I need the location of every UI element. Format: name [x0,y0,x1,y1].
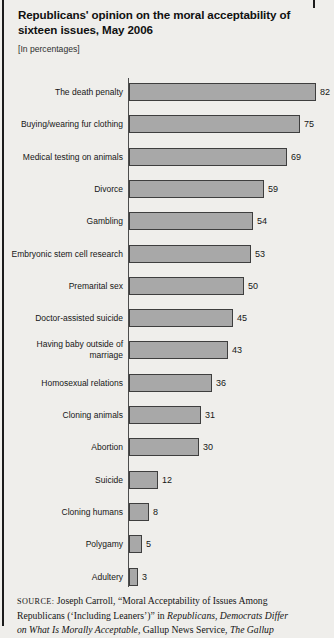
bar-row: Embryonic stem cell research53 [0,245,334,263]
value-label: 5 [146,539,151,549]
category-label: Embryonic stem cell research [2,248,123,259]
source-citation: SOURCE: Joseph Carroll, “Moral Acceptabi… [17,594,321,638]
bar-row: Cloning animals31 [0,406,334,424]
bar [129,180,264,198]
value-label: 45 [237,313,247,323]
bar-row: Premarital sex50 [0,277,334,295]
bar-row: Medical testing on animals69 [0,148,334,166]
bar-row: Having baby outside of marriage43 [0,341,334,359]
bar-row: Adultery3 [0,568,334,586]
bar [129,83,316,101]
category-label: Gambling [2,216,123,227]
bar-row: The death penalty82 [0,83,334,101]
category-label: Having baby outside of marriage [2,339,123,361]
bar-row: Abortion30 [0,438,334,456]
page-edge-mark [313,0,315,8]
category-label: Adultery [2,571,123,582]
value-label: 50 [248,281,258,291]
bar-row: Cloning humans8 [0,503,334,521]
bar [129,277,244,295]
value-label: 30 [203,442,213,452]
bar [129,212,253,230]
bar [129,245,251,263]
bar [129,503,149,521]
category-label: Buying/wearing fur clothing [2,119,123,130]
category-label: Cloning humans [2,506,123,517]
chart-title: Republicans' opinion on the moral accept… [18,8,324,37]
bar [129,406,201,424]
category-label: Doctor-assisted suicide [2,313,123,324]
bar [129,341,228,359]
value-label: 82 [320,87,330,97]
category-label: Homosexual relations [2,377,123,388]
source-line: SOURCE: Joseph Carroll, “Moral Acceptabi… [17,594,321,609]
category-label: Cloning animals [2,410,123,421]
value-label: 3 [142,572,147,582]
category-label: Polygamy [2,539,123,550]
value-label: 53 [255,249,265,259]
category-label: Premarital sex [2,280,123,291]
value-label: 75 [304,119,314,129]
bar [129,568,138,586]
bar-chart: The death penalty82Buying/wearing fur cl… [0,78,334,590]
chart-subtitle: [In percentages] [18,44,80,54]
bar-row: Suicide12 [0,471,334,489]
category-label: Suicide [2,474,123,485]
value-label: 43 [232,345,242,355]
bar [129,438,199,456]
value-label: 59 [268,184,278,194]
source-line: on What Is Morally Acceptable, Gallup Ne… [17,623,321,637]
category-label: Abortion [2,442,123,453]
value-label: 69 [291,152,301,162]
source-line: Republicans (‘Including Leaners’)” in Re… [17,609,321,623]
category-label: The death penalty [2,87,123,98]
bar [129,309,233,327]
bar-row: Homosexual relations36 [0,374,334,392]
bar-row: Polygamy5 [0,535,334,553]
bar-row: Gambling54 [0,212,334,230]
bar [129,374,212,392]
bar [129,148,287,166]
bar [129,471,158,489]
bar [129,535,142,553]
value-label: 54 [257,216,267,226]
bar-row: Doctor-assisted suicide45 [0,309,334,327]
value-label: 12 [162,475,172,485]
bar [129,115,300,133]
bar-row: Buying/wearing fur clothing75 [0,115,334,133]
value-label: 36 [216,378,226,388]
value-label: 31 [205,410,215,420]
category-label: Medical testing on animals [2,151,123,162]
value-label: 8 [153,507,158,517]
category-label: Divorce [2,183,123,194]
bar-row: Divorce59 [0,180,334,198]
